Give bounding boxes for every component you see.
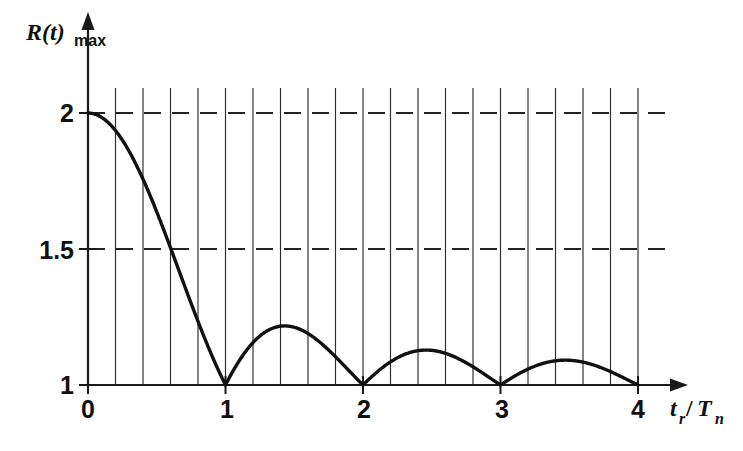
x-tick-label-1: 1 [220, 395, 234, 423]
x-tick-label-0: 0 [81, 395, 95, 423]
vertical-gridlines [88, 88, 638, 385]
chart-container: 1 1.5 2 0 1 2 3 4 R(t) max t r / T n [0, 0, 743, 451]
x-tick-label-4: 4 [631, 395, 645, 423]
y-axis-title-subscript: max [74, 32, 106, 49]
y-axis-title-base: R(t) [25, 19, 65, 45]
x-axis-title-sub1: r [679, 410, 686, 427]
y-tick-label-1-5: 1.5 [39, 236, 74, 264]
y-tick-label-2: 2 [60, 99, 74, 127]
x-axis-title-base2: T [697, 395, 713, 421]
x-tick-label-3: 3 [495, 395, 509, 423]
y-tick-label-1: 1 [60, 371, 74, 399]
chart-svg: 1 1.5 2 0 1 2 3 4 R(t) max t r / T n [0, 0, 743, 451]
x-axis-title-sub2: n [715, 410, 724, 427]
x-axis-title-slash: / [685, 395, 693, 421]
x-tick-label-2: 2 [357, 395, 371, 423]
